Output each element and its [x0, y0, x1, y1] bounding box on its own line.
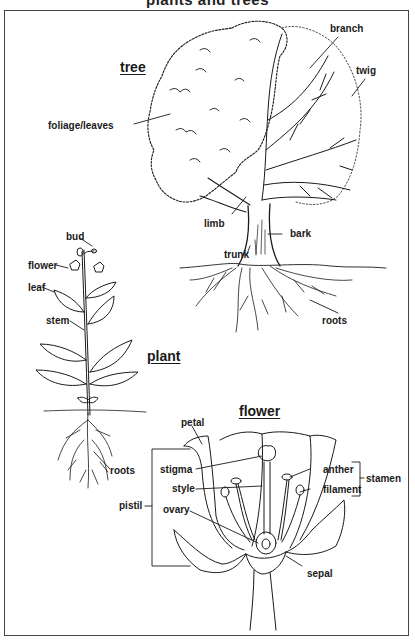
label-style: style: [172, 484, 195, 494]
label-leaf: leaf: [28, 283, 45, 293]
label-petal: petal: [181, 418, 204, 428]
label-stem: stem: [46, 316, 69, 326]
label-trunk: trunk: [224, 250, 249, 260]
tree-foliage: [148, 21, 287, 202]
label-filament: filament: [323, 485, 361, 495]
tree-illustration: [148, 21, 386, 332]
label-bud: bud: [66, 232, 84, 242]
label-flower: flower: [28, 261, 57, 271]
label-stamen: stamen: [366, 474, 401, 484]
plant-roots: [58, 413, 112, 488]
label-foliage-leaves: foliage/leaves: [48, 121, 114, 131]
flower-ovary: [256, 532, 276, 554]
tree-branches: [282, 26, 361, 204]
flower-illustration: [174, 432, 345, 630]
label-limb: limb: [204, 219, 225, 229]
flower-style: [264, 462, 270, 534]
label-bark: bark: [290, 229, 311, 239]
plant-illustration: [36, 248, 146, 488]
label-ovary: ovary: [163, 505, 190, 515]
label-sepal: sepal: [307, 569, 333, 579]
plant-stem: [82, 250, 90, 415]
label-branch: branch: [330, 24, 363, 34]
label-stigma: stigma: [160, 465, 192, 475]
tree-heading: tree: [120, 60, 146, 74]
plant-leaf: [86, 282, 116, 298]
label-twig: twig: [356, 66, 376, 76]
flower-stigma: [258, 446, 275, 461]
label-tree-roots: roots: [322, 316, 347, 326]
label-plant-roots: roots: [110, 466, 135, 476]
flower-stem: [250, 570, 276, 630]
label-pistil: pistil: [119, 501, 142, 511]
plant-heading: plant: [147, 349, 180, 363]
flower-heading: flower: [239, 404, 280, 418]
label-anther: anther: [323, 465, 354, 475]
